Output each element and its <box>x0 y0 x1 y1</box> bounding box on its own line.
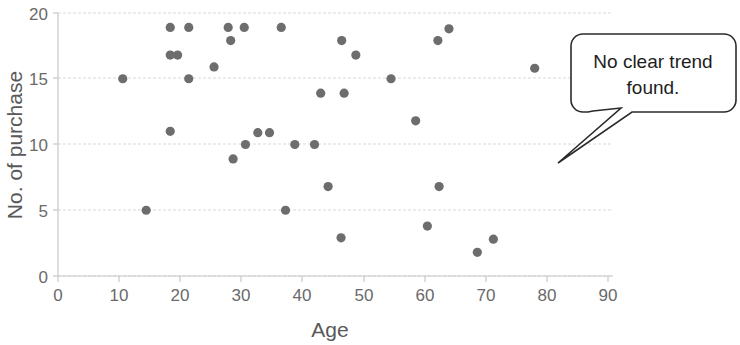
data-point <box>340 89 349 98</box>
data-point <box>166 127 175 136</box>
data-point <box>386 74 395 83</box>
x-tick-label-90: 90 <box>599 286 618 305</box>
data-point <box>290 140 299 149</box>
x-tick-label-50: 50 <box>355 286 374 305</box>
data-point-group <box>118 23 539 257</box>
data-point <box>253 128 262 137</box>
data-point <box>224 23 233 32</box>
data-point <box>336 233 345 242</box>
y-tick-label-5: 5 <box>39 202 48 221</box>
y-tick-label-10: 10 <box>29 136 48 155</box>
data-point <box>489 235 498 244</box>
data-point <box>411 116 420 125</box>
x-axis-title: Age <box>311 318 348 341</box>
chart-canvas: 20 15 10 5 0 0 10 20 30 40 50 60 70 <box>0 0 740 345</box>
data-point <box>142 206 151 215</box>
y-tick-label-15: 15 <box>29 70 48 89</box>
data-point <box>444 24 453 33</box>
data-point <box>166 23 175 32</box>
data-point <box>173 50 182 59</box>
data-point <box>310 140 319 149</box>
x-tick-label-20: 20 <box>171 286 190 305</box>
scatter-plot-figure: 20 15 10 5 0 0 10 20 30 40 50 60 70 <box>0 0 740 345</box>
x-tick-label-10: 10 <box>110 286 129 305</box>
data-point <box>423 221 432 230</box>
x-tick-label-60: 60 <box>416 286 435 305</box>
y-tick-label-20: 20 <box>29 5 48 24</box>
y-axis-ticks <box>53 13 58 276</box>
data-point <box>184 74 193 83</box>
data-point <box>473 248 482 257</box>
gridlines <box>58 13 613 276</box>
data-point <box>265 128 274 137</box>
data-point <box>277 23 286 32</box>
x-axis-tick-labels: 0 10 20 30 40 50 60 70 80 90 <box>53 286 617 305</box>
data-point <box>240 23 249 32</box>
data-point <box>226 36 235 45</box>
data-point <box>435 182 444 191</box>
x-tick-label-30: 30 <box>232 286 251 305</box>
no-trend-callout: No clear trend found. <box>558 34 736 163</box>
y-axis-tick-labels: 20 15 10 5 0 <box>29 5 48 287</box>
callout-text-line-2: found. <box>627 77 680 98</box>
data-point <box>433 36 442 45</box>
data-point <box>337 36 346 45</box>
data-point <box>324 182 333 191</box>
data-point <box>241 140 250 149</box>
data-point <box>209 62 218 71</box>
x-tick-label-40: 40 <box>293 286 312 305</box>
data-point <box>184 23 193 32</box>
y-tick-label-0: 0 <box>39 268 48 287</box>
x-tick-label-70: 70 <box>477 286 496 305</box>
data-point <box>530 64 539 73</box>
x-tick-label-0: 0 <box>53 286 62 305</box>
data-point <box>229 154 238 163</box>
y-axis-title: No. of purchase <box>3 71 26 219</box>
callout-text-line-1: No clear trend <box>593 51 712 72</box>
data-point <box>281 206 290 215</box>
data-point <box>351 50 360 59</box>
x-axis-ticks <box>58 276 608 282</box>
data-point <box>118 74 127 83</box>
data-point <box>316 89 325 98</box>
x-tick-label-80: 80 <box>538 286 557 305</box>
